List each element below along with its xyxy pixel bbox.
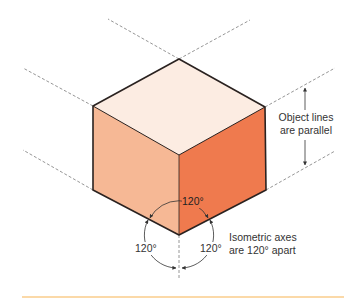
- dashed-line-right-top: [265, 68, 335, 107]
- dashed-line-left-top: [23, 68, 93, 106]
- axes-note-line1: Isometric axes: [229, 231, 297, 244]
- dashed-line-right-bottom: [266, 151, 335, 190]
- angle-label-top: 120°: [182, 195, 204, 208]
- dashed-line-left-bottom: [23, 150, 93, 190]
- angle-label-right: 120°: [200, 242, 222, 255]
- angle-label-left: 120°: [135, 242, 157, 255]
- axes-note-line2: are 120° apart: [229, 244, 297, 257]
- parallel-note-line1: Object lines: [272, 111, 340, 124]
- footer-divider: [22, 296, 344, 298]
- parallel-note-line2: are parallel: [272, 124, 340, 137]
- parallel-note: Object lines are parallel: [272, 111, 340, 137]
- dashed-line-top-left: [108, 19, 179, 59]
- axes-note: Isometric axes are 120° apart: [229, 231, 297, 257]
- isometric-cube-diagram: [0, 0, 354, 302]
- cube: [93, 59, 266, 235]
- dashed-line-top-right: [179, 20, 250, 59]
